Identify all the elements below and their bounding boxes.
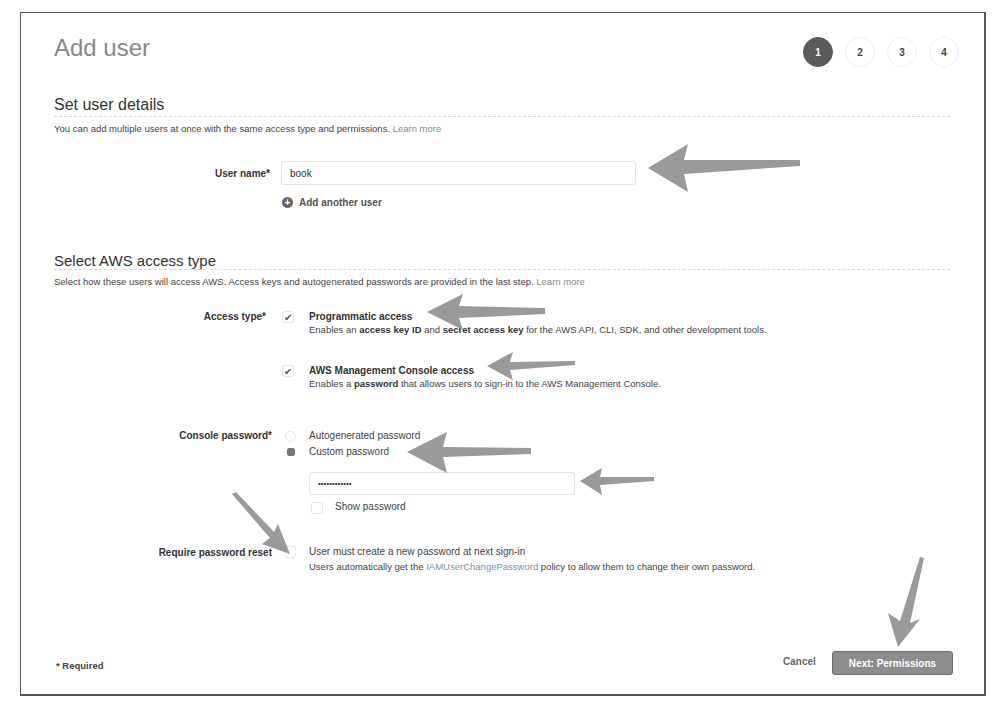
desc-text: Enables a	[309, 378, 354, 389]
custom-password-radio[interactable]	[287, 448, 295, 456]
custom-password-input[interactable]	[309, 472, 575, 495]
user-name-label: User name*	[150, 168, 270, 179]
step-indicator: 1 2 3 4	[803, 37, 959, 67]
learn-more-link[interactable]: Learn more	[536, 276, 585, 287]
custom-password-label: Custom password	[309, 446, 389, 457]
step-2[interactable]: 2	[845, 37, 875, 67]
show-password-label: Show password	[335, 501, 406, 512]
autogenerated-password-radio[interactable]	[285, 431, 296, 442]
step-1[interactable]: 1	[803, 37, 833, 67]
console-access-description: Enables a password that allows users to …	[309, 375, 819, 392]
desc-text: and	[422, 324, 443, 335]
iam-policy-link[interactable]: IAMUserChangePassword	[426, 561, 538, 572]
desc-text: for the AWS API, CLI, SDK, and other dev…	[524, 324, 767, 335]
plus-circle-icon: +	[282, 197, 293, 208]
section-title-user-details: Set user details	[54, 96, 164, 114]
console-access-checkbox[interactable]: ✔	[282, 365, 294, 377]
section-title-access-type: Select AWS access type	[54, 252, 216, 269]
section-divider	[54, 269, 950, 270]
user-details-description-text: You can add multiple users at once with …	[54, 123, 390, 134]
programmatic-access-description: Enables an access key ID and secret acce…	[309, 321, 819, 338]
autogenerated-password-label: Autogenerated password	[309, 430, 420, 441]
desc-bold: access key ID	[359, 324, 421, 335]
step-3[interactable]: 3	[887, 37, 917, 67]
console-password-label: Console password*	[130, 430, 272, 441]
show-password-checkbox[interactable]	[311, 502, 323, 514]
step-4[interactable]: 4	[929, 37, 959, 67]
desc-text: Enables an	[309, 324, 359, 335]
user-details-description: You can add multiple users at once with …	[54, 123, 441, 134]
section-divider	[54, 116, 950, 117]
checkmark-icon: ✔	[284, 366, 292, 377]
programmatic-access-checkbox[interactable]: ✔	[282, 311, 294, 323]
user-name-input[interactable]	[281, 161, 636, 185]
desc-text: Users automatically get the	[309, 561, 426, 572]
require-password-reset-checkbox[interactable]	[284, 546, 296, 558]
checkmark-icon: ✔	[284, 312, 292, 323]
cancel-button[interactable]: Cancel	[783, 656, 816, 667]
add-another-user-label: Add another user	[299, 197, 382, 208]
desc-bold: secret access key	[443, 324, 524, 335]
next-permissions-button[interactable]: Next: Permissions	[832, 651, 953, 675]
require-password-reset-label: Require password reset	[130, 547, 272, 558]
desc-text: that allows users to sign-in to the AWS …	[398, 378, 661, 389]
add-another-user-button[interactable]: + Add another user	[282, 197, 382, 208]
learn-more-link[interactable]: Learn more	[393, 123, 442, 134]
required-note: * Required	[56, 660, 104, 671]
page-frame	[20, 12, 986, 696]
page-title: Add user	[54, 34, 150, 62]
desc-text: policy to allow them to change their own…	[538, 561, 755, 572]
require-password-reset-option: User must create a new password at next …	[309, 546, 525, 557]
access-type-description: Select how these users will access AWS. …	[54, 276, 585, 287]
require-password-reset-description: Users automatically get the IAMUserChang…	[309, 558, 799, 575]
access-type-label: Access type*	[150, 311, 266, 322]
access-type-description-text: Select how these users will access AWS. …	[54, 276, 534, 287]
desc-bold: password	[354, 378, 398, 389]
